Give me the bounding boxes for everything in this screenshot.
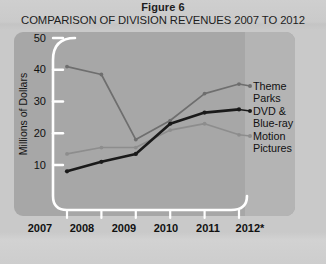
data-point [134, 138, 138, 142]
data-point [65, 152, 69, 156]
data-point [168, 122, 172, 126]
legend-marker [248, 134, 252, 138]
data-point [203, 92, 207, 96]
series-line-dvd-blue-ray [67, 109, 239, 171]
data-point [100, 73, 104, 77]
line-chart-svg [0, 0, 326, 264]
series-line-theme-parks [67, 67, 239, 140]
axis-frame [53, 38, 247, 210]
legend-marker [248, 84, 252, 88]
legend-marker [248, 109, 252, 113]
data-point [65, 65, 69, 69]
figure-container: Figure 6 COMPARISON OF DIVISION REVENUES… [0, 0, 326, 264]
data-point [203, 122, 207, 126]
data-point [99, 160, 103, 164]
data-point [203, 111, 207, 115]
data-point [65, 169, 69, 173]
legend-leader-lines [239, 84, 252, 138]
data-point [134, 152, 138, 156]
data-point [168, 128, 172, 132]
data-point [100, 146, 104, 150]
data-point [134, 146, 138, 150]
chart-series-layer [65, 65, 241, 174]
